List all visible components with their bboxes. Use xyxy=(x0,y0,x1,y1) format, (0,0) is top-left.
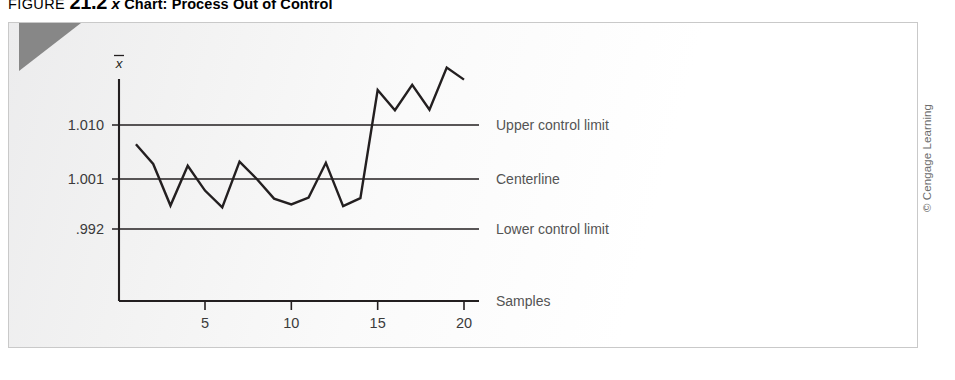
figure-xbar-symbol: x xyxy=(111,0,119,12)
x-axis-tick-label: 5 xyxy=(201,315,209,331)
sample-mean-series xyxy=(136,67,464,207)
x-axis-tick-label: 15 xyxy=(370,315,386,331)
copyright-notice: © Cengage Learning xyxy=(921,196,933,212)
figure-word: FIGURE xyxy=(8,0,65,12)
centerline-label: Centerline xyxy=(496,171,560,187)
x-axis-label: Samples xyxy=(496,293,550,309)
x-axis-tick-label: 20 xyxy=(456,315,472,331)
y-tick-label-center: 1.001 xyxy=(68,171,104,187)
y-axis-label: x xyxy=(115,56,124,71)
x-axis-tick-label: 10 xyxy=(283,315,299,331)
figure-plate: x 1.010 Upper control limit 1.001 Center… xyxy=(8,22,918,348)
upper-control-limit-label: Upper control limit xyxy=(496,117,609,133)
y-tick-label-lower: .992 xyxy=(76,221,104,237)
x-axis-ticks: 5101520 xyxy=(201,301,472,331)
control-chart: x 1.010 Upper control limit 1.001 Center… xyxy=(9,23,919,349)
figure-title: Chart: Process Out of Control xyxy=(124,0,332,12)
lower-control-limit-label: Lower control limit xyxy=(496,221,609,237)
y-tick-label-upper: 1.010 xyxy=(68,117,104,133)
figure-caption: FIGURE 21.2 x Chart: Process Out of Cont… xyxy=(8,0,333,15)
figure-number: 21.2 xyxy=(69,0,107,13)
